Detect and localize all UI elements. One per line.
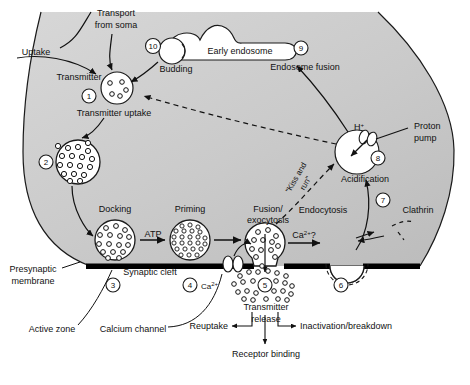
step-7-label: 7 <box>381 196 386 205</box>
budding-bulb <box>159 38 185 64</box>
label-docking: Docking <box>99 204 132 214</box>
acidification-vesicle <box>335 129 379 174</box>
label-reuptake: Reuptake <box>189 321 228 331</box>
step-2-vesicle-filled: 2 <box>39 155 53 169</box>
step-4-calcium-influx: 4 <box>183 278 197 292</box>
label-endocytosis: Endocytosis <box>299 205 348 215</box>
step-9-label: 9 <box>299 44 304 53</box>
arrow-reuptake <box>232 312 252 326</box>
label-transmitter-release-line1: Transmitter <box>243 302 288 312</box>
step-8-acidification: 8 <box>371 151 385 165</box>
label-receptor-binding: Receptor binding <box>232 349 300 359</box>
label-active-zone: Active zone <box>29 324 76 334</box>
label-acidification: Acidification <box>341 174 389 184</box>
step-4-label: 4 <box>188 281 193 290</box>
step-6-label: 6 <box>339 281 344 290</box>
step-5-transmitter-release: 5 <box>258 278 272 292</box>
step-1-label: 1 <box>87 92 92 101</box>
label-fusion-line2: exocytosis <box>247 215 290 225</box>
step-3-docking: 3 <box>106 278 120 292</box>
label-transport-from-soma-line1: Transport <box>97 8 136 18</box>
label-proton-pump-line1: Proton <box>414 121 441 131</box>
label-synaptic-cleft: Synaptic cleft <box>123 267 177 277</box>
step-2-label: 2 <box>44 158 49 167</box>
vesicle-docking <box>95 220 135 260</box>
leader-active-zone <box>78 270 112 325</box>
label-transmitter: Transmitter <box>56 72 101 82</box>
label-priming: Priming <box>175 204 206 214</box>
leader-presynaptic-membrane <box>62 262 80 268</box>
label-transport-from-soma-line2: from soma <box>95 20 138 30</box>
label-atp: ATP <box>145 229 162 239</box>
label-transmitter-release-line2: release <box>251 314 281 324</box>
label-budding: Budding <box>159 64 192 74</box>
vesicle-priming <box>170 220 210 260</box>
step-7-clathrin-coated-vesicle: 7 <box>376 193 390 207</box>
label-calcium-channel: Calcium channel <box>100 324 167 334</box>
label-proton-pump-line2: pump <box>414 133 437 143</box>
label-inactivation: Inactivation/breakdown <box>300 321 392 331</box>
synaptic-vesicle-cycle-diagram: 1 2 3 4 5 6 7 8 <box>0 0 470 385</box>
label-calcium-ion: Ca2+ <box>201 281 219 291</box>
label-presynaptic-line1: Presynaptic <box>9 264 57 274</box>
vesicle-filled-2 <box>55 140 100 184</box>
step-8-label: 8 <box>376 154 381 163</box>
step-3-label: 3 <box>111 281 116 290</box>
step-10-label: 10 <box>149 42 158 51</box>
step-5-label: 5 <box>263 281 268 290</box>
step-6-endocytosis: 6 <box>334 278 348 292</box>
label-transmitter-uptake: Transmitter uptake <box>77 108 152 118</box>
label-uptake: Uptake <box>22 47 51 57</box>
label-early-endosome: Early endosome <box>207 46 272 56</box>
step-1-transmitter-uptake: 1 <box>82 89 96 103</box>
step-10-budding: 10 <box>146 39 161 54</box>
vesicle-transmitter-uptake <box>101 72 133 104</box>
step-9-endosome-fusion: 9 <box>294 41 308 55</box>
label-clathrin: Clathrin <box>402 205 433 215</box>
label-fusion-line1: Fusion/ <box>253 204 283 214</box>
label-presynaptic-line2: membrane <box>11 276 54 286</box>
label-endosome-fusion: Endosome fusion <box>270 62 340 72</box>
